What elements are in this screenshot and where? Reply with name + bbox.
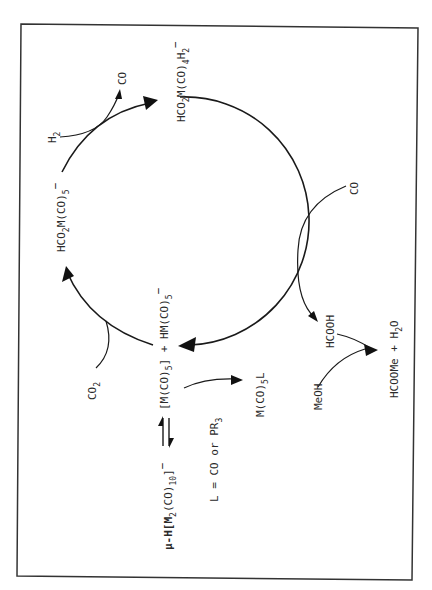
label-bottom-species: [M(CO)5] + HM(CO)5− <box>152 287 174 410</box>
label-ligand-product: M(CO)5L <box>254 372 270 417</box>
label-left-species: HCO2M(CO)5− <box>49 182 71 252</box>
cycle-arc-main <box>180 97 309 345</box>
arrowhead-co-out <box>115 89 122 99</box>
arrowhead-top <box>143 96 158 110</box>
co2-in-arrow <box>96 321 109 368</box>
arrowhead-left <box>62 266 74 282</box>
label-top-species: HCO2M(CO)4H2− <box>169 41 191 122</box>
catalytic-cycle-diagram: HCO2M(CO)4H2− HCO2M(CO)5− [M(CO)5] + HM(… <box>0 0 432 590</box>
label-h2: H2 <box>46 131 62 143</box>
label-hcooh: HCOOH <box>324 315 337 348</box>
h2-in-arrow <box>60 94 119 137</box>
meoh-to-ester <box>318 349 365 387</box>
label-co-in: CO <box>348 182 361 195</box>
label-dimer: μ-H[M2(CO)10]− <box>156 462 178 550</box>
arrowhead-bottom <box>178 337 196 352</box>
ligand-arrow <box>184 379 235 388</box>
equilibrium-arrows <box>158 416 174 448</box>
label-co-out: CO <box>116 72 129 85</box>
arrowhead-ligand <box>231 375 243 385</box>
label-ligand-definition: L = CO or PR3 <box>208 418 224 502</box>
cycle-arc-top <box>62 103 150 172</box>
arrowhead-ester <box>364 344 378 356</box>
cycle-arc-left <box>67 272 153 345</box>
label-meoh: MeOH <box>312 384 325 411</box>
label-co2: CO2 <box>86 382 102 400</box>
label-products: HCOOMe + H2O <box>388 320 404 398</box>
